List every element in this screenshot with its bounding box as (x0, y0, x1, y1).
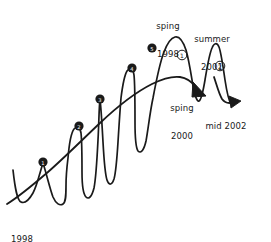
annotation-start-1998: 1998 (11, 217, 51, 242)
figure-page: { "figure": { "background_color": "#ffff… (0, 0, 271, 242)
annotation-summer-2001-line1: summer (186, 35, 238, 44)
annotation-mid-2002-line1: mid 2002 (199, 122, 253, 131)
annotation-spring-2000-line1: sping (160, 104, 204, 113)
marker-2-label: 2 (77, 124, 80, 130)
annotation-mid-2002: mid 2002 (199, 104, 253, 141)
annotation-summer-2001: summer 2001 (186, 17, 238, 81)
marker-2: 2 (74, 121, 83, 130)
marker-1: 1 (38, 157, 47, 166)
annotation-spring-2000: sping 2000 (160, 86, 204, 150)
marker-3: 3 (95, 94, 104, 103)
annotation-spring-1998-line2: 1998 (147, 50, 189, 59)
marker-4: 4 (127, 63, 136, 72)
annotation-spring-2000-line2: 2000 (160, 132, 204, 141)
marker-3-label: 3 (98, 97, 101, 103)
annotation-spring-1998: sping 1998 (147, 4, 189, 68)
annotation-summer-2001-line2: 2001 (186, 63, 238, 72)
annotation-spring-1998-line1: sping (147, 22, 189, 31)
annotation-start-1998-line1: 1998 (11, 235, 51, 242)
marker-1-label: 1 (41, 160, 44, 166)
